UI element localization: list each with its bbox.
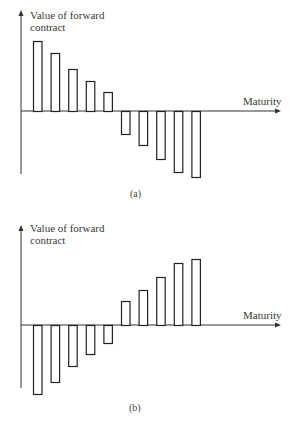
y-axis-label-b-line2: contract: [30, 234, 65, 246]
charts-canvas: [0, 0, 296, 425]
bar: [86, 326, 95, 355]
y-axis-arrow-icon: [19, 10, 24, 16]
y-axis-label-a-line1: Value of forward: [30, 9, 105, 21]
bar: [157, 112, 166, 160]
y-axis-arrow-icon: [19, 225, 24, 231]
bar: [174, 264, 183, 326]
bar: [69, 70, 78, 112]
bar: [104, 326, 113, 344]
bar: [174, 112, 183, 173]
x-axis-label-a: Maturity: [243, 95, 282, 107]
y-axis-label-a-line2: contract: [30, 21, 65, 33]
bar: [192, 260, 201, 326]
bar: [51, 54, 60, 112]
bar: [122, 112, 131, 135]
chart-panel-a: [19, 10, 282, 178]
x-axis-label-b: Maturity: [243, 309, 282, 321]
bar: [104, 93, 113, 112]
x-axis-arrow-icon: [275, 323, 281, 328]
panel-caption-a: (a): [130, 188, 141, 199]
bar: [51, 326, 60, 383]
panel-caption-b: (b): [129, 402, 141, 413]
bar: [157, 278, 166, 326]
x-axis-arrow-icon: [275, 109, 281, 114]
bar: [34, 42, 43, 112]
bar: [34, 326, 43, 395]
bar: [122, 302, 131, 326]
bar: [192, 112, 201, 178]
y-axis-label-b-line1: Value of forward: [30, 222, 105, 234]
bar: [139, 112, 148, 146]
bar: [86, 82, 95, 112]
bar: [139, 291, 148, 326]
bar: [69, 326, 78, 367]
chart-panel-b: [19, 225, 282, 395]
